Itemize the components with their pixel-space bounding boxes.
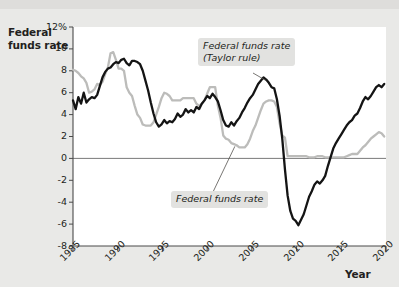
y-tick-label: -2 xyxy=(25,175,67,185)
y-tick-label: 12% xyxy=(25,22,67,32)
y-tick-label: -8 xyxy=(25,241,67,251)
y-tick-label: 0 xyxy=(25,153,67,163)
y-tick-label: 2 xyxy=(25,131,67,141)
chart-figure: Federal funds rate Year 12%1086420-2-4-6… xyxy=(0,0,399,287)
y-tick-label: -4 xyxy=(25,197,67,207)
y-tick-label: 4 xyxy=(25,109,67,119)
annotation-federal-funds-rate: Federal funds rate xyxy=(171,191,268,208)
annotation-leader-lines xyxy=(213,73,266,192)
y-tick-label: 6 xyxy=(25,87,67,97)
annotation-leader-line xyxy=(213,146,235,192)
x-axis-title: Year xyxy=(345,268,371,281)
y-tick-label: -6 xyxy=(25,219,67,229)
y-tick-label: 10 xyxy=(25,43,67,53)
y-tick-label: 8 xyxy=(25,65,67,75)
annotation-taylor-rule: Federal funds rate (Taylor rule) xyxy=(198,38,295,66)
